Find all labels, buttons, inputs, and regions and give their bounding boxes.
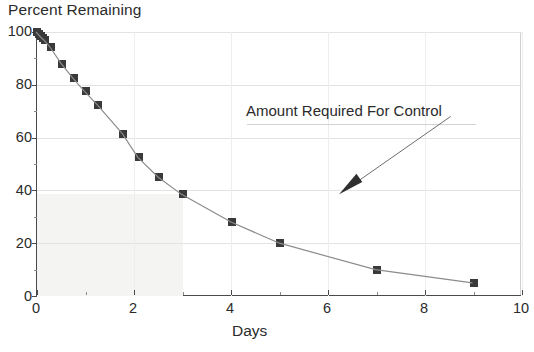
plot-area bbox=[36, 32, 521, 296]
x-axis-tick-minor bbox=[86, 292, 87, 295]
gridline-vertical bbox=[328, 32, 329, 296]
data-point-marker bbox=[228, 218, 236, 226]
x-axis-tick bbox=[231, 290, 232, 295]
gridline-vertical bbox=[231, 32, 232, 296]
y-axis-tick-minor bbox=[34, 270, 37, 271]
x-tick-label-2: 2 bbox=[118, 300, 148, 316]
data-point-marker bbox=[155, 173, 163, 181]
gridline-vertical bbox=[134, 32, 135, 296]
gridline-horizontal bbox=[37, 32, 522, 33]
y-axis-tick bbox=[32, 243, 37, 244]
x-axis-label: Days bbox=[232, 322, 267, 340]
x-tick-label-0: 0 bbox=[21, 300, 51, 316]
gridline-horizontal bbox=[37, 190, 522, 191]
data-point-marker bbox=[135, 153, 143, 161]
y-axis-label: Percent Remaining bbox=[8, 1, 142, 19]
data-point-marker bbox=[119, 130, 127, 138]
gridline-vertical bbox=[425, 32, 426, 296]
y-axis-tick bbox=[32, 190, 37, 191]
y-axis-tick-minor bbox=[34, 58, 37, 59]
x-tick-label-4: 4 bbox=[215, 300, 245, 316]
data-point-marker bbox=[276, 239, 284, 247]
y-tick-label-60: 60 bbox=[2, 129, 32, 145]
y-axis-tick-minor bbox=[34, 217, 37, 218]
x-tick-label-8: 8 bbox=[409, 300, 439, 316]
gridline-horizontal bbox=[37, 138, 522, 139]
y-tick-label-100: 100 bbox=[0, 23, 32, 39]
x-axis-tick-minor bbox=[280, 292, 281, 295]
x-axis-tick-minor bbox=[474, 292, 475, 295]
annotation-underline bbox=[247, 124, 476, 125]
x-axis-tick bbox=[328, 290, 329, 295]
data-point-marker bbox=[47, 43, 55, 51]
x-axis-tick-minor bbox=[377, 292, 378, 295]
x-axis-tick bbox=[37, 290, 38, 295]
data-point-marker bbox=[58, 60, 66, 68]
x-tick-label-6: 6 bbox=[312, 300, 342, 316]
y-axis-tick-minor bbox=[34, 164, 37, 165]
data-point-marker bbox=[94, 101, 102, 109]
y-tick-label-80: 80 bbox=[2, 76, 32, 92]
y-axis-tick-minor bbox=[34, 111, 37, 112]
x-tick-label-10: 10 bbox=[506, 300, 534, 316]
x-axis-tick-minor bbox=[183, 292, 184, 295]
y-axis-tick bbox=[32, 138, 37, 139]
data-point-marker bbox=[179, 190, 187, 198]
data-point-marker bbox=[82, 87, 90, 95]
y-tick-label-40: 40 bbox=[2, 182, 32, 198]
gridline-vertical bbox=[522, 32, 523, 296]
shaded-control-region bbox=[37, 194, 183, 296]
data-point-marker bbox=[70, 74, 78, 82]
percent-remaining-chart: Percent Remaining Days 0 20 40 60 80 100… bbox=[0, 0, 534, 352]
x-axis-tick bbox=[134, 290, 135, 295]
gridline-horizontal bbox=[37, 85, 522, 86]
y-tick-label-20: 20 bbox=[2, 235, 32, 251]
x-axis-tick bbox=[522, 290, 523, 295]
y-axis-tick bbox=[32, 296, 37, 297]
data-point-marker bbox=[470, 279, 478, 287]
annotation-label: Amount Required For Control bbox=[246, 102, 442, 119]
x-axis-tick bbox=[425, 290, 426, 295]
y-axis-tick bbox=[32, 85, 37, 86]
data-point-marker bbox=[373, 266, 381, 274]
